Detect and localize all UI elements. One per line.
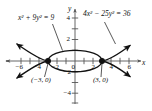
ellipse-equation-label: x² + 9y² = 9	[18, 14, 54, 22]
intersection-point-right	[99, 58, 105, 64]
y-axis	[72, 9, 78, 104]
y-tick-label-2: 2	[67, 36, 71, 43]
y-tick-label-minus2-text: −2	[64, 69, 71, 76]
hyperbola-equation-label: 4x² − 25y² = 36	[83, 10, 131, 18]
y-axis-label: y	[68, 5, 71, 13]
x-tick-label-4: 4	[110, 64, 114, 71]
x-axis-label: x	[142, 59, 145, 67]
x-tick-label-minus6: −6	[16, 64, 23, 71]
leader-line-ellipse	[53, 24, 63, 51]
math-figure: x² + 9y² = 9 4x² − 25y² = 36 (−3, 0) (3,…	[0, 0, 152, 111]
intersection-point-left	[45, 58, 51, 64]
x-tick-label-2: 2	[92, 64, 96, 71]
y-tick-label-4: 4	[67, 15, 71, 22]
y-tick-label-minus4: −4	[64, 90, 71, 97]
x-tick-label-minus2: −2	[52, 64, 59, 71]
x-tick-label-zero: 0	[72, 64, 76, 71]
leader-line-point-right	[101, 64, 102, 78]
x-tick-label-minus4: −4	[34, 64, 41, 71]
leader-line-hyperbola	[105, 22, 116, 44]
point-label-right: (3, 0)	[93, 77, 108, 84]
point-label-left: (−3, 0)	[31, 77, 51, 84]
leader-line-point-left	[45, 64, 49, 78]
x-tick-label-6: 6	[128, 64, 132, 71]
